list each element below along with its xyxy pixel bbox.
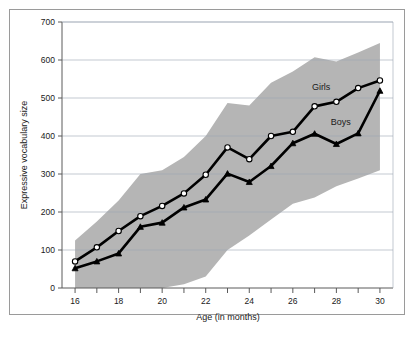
data-point-girls [225, 145, 230, 150]
data-point-girls [355, 85, 360, 90]
y-tick-label: 300 [41, 169, 55, 179]
data-point-girls [203, 172, 208, 177]
x-tick-label: 24 [245, 296, 255, 306]
x-tick-label: 26 [288, 296, 298, 306]
y-axis-ticks: 0100200300400500600700 [41, 17, 62, 293]
y-tick-label: 0 [50, 283, 55, 293]
y-tick-label: 400 [41, 131, 55, 141]
data-point-girls [268, 133, 273, 138]
x-tick-label: 16 [70, 296, 80, 306]
chart-plot-area: 0100200300400500600700 1618202224262830 … [0, 0, 417, 337]
data-point-girls [247, 156, 252, 161]
x-tick-label: 30 [375, 296, 385, 306]
data-point-girls [377, 78, 382, 83]
data-point-girls [159, 203, 164, 208]
data-point-girls [72, 259, 77, 264]
x-axis-ticks: 1618202224262830 [70, 288, 385, 306]
x-tick-label: 28 [332, 296, 342, 306]
data-point-girls [116, 228, 121, 233]
data-point-girls [312, 104, 317, 109]
x-axis-title: Age (in months) [196, 312, 260, 322]
y-tick-label: 500 [41, 93, 55, 103]
data-point-girls [181, 191, 186, 196]
chart-figure: 0100200300400500600700 1618202224262830 … [0, 0, 417, 337]
series-label-boys: Boys [331, 117, 352, 127]
y-tick-label: 600 [41, 55, 55, 65]
y-tick-label: 100 [41, 245, 55, 255]
data-point-girls [334, 99, 339, 104]
data-point-girls [94, 245, 99, 250]
y-axis-title: Expressive vocabulary size [19, 101, 29, 210]
x-tick-label: 22 [201, 296, 211, 306]
data-point-girls [138, 213, 143, 218]
x-tick-label: 18 [114, 296, 124, 306]
x-tick-label: 20 [157, 296, 167, 306]
y-tick-label: 700 [41, 17, 55, 27]
data-point-girls [290, 129, 295, 134]
y-tick-label: 200 [41, 207, 55, 217]
series-label-girls: Girls [312, 82, 331, 92]
